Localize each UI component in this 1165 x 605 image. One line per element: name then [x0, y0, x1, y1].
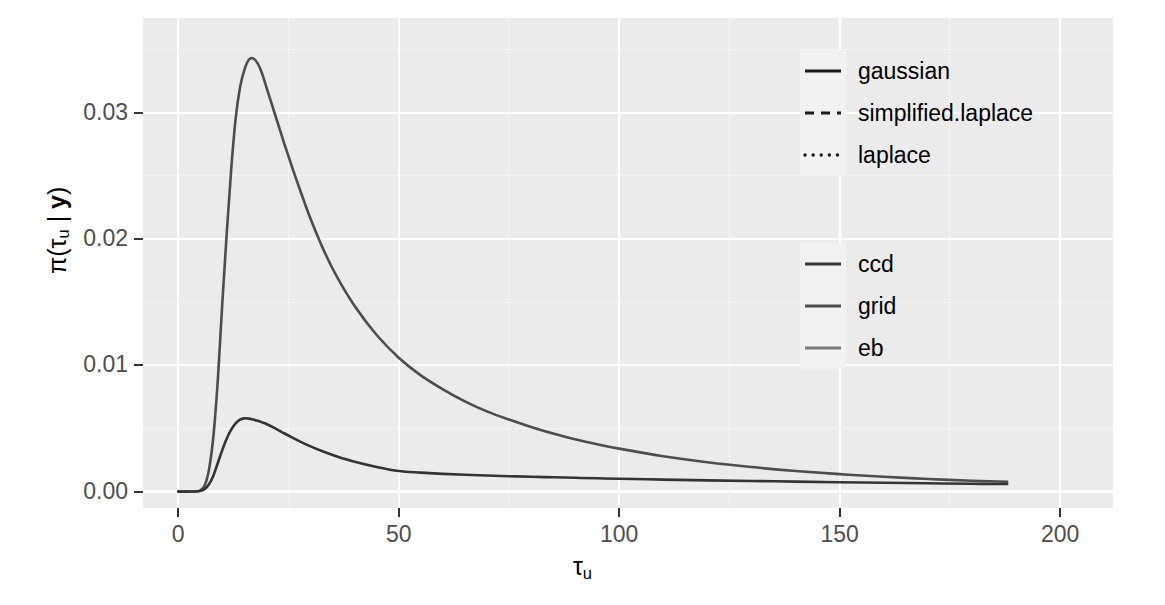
legend-item-grid[interactable]: grid: [800, 285, 896, 327]
y-tick-label: 0.01: [30, 351, 128, 378]
legend-key-solid-icon: [800, 243, 846, 285]
legend-label: ccd: [858, 251, 894, 278]
legend-key-solid-icon: [800, 327, 846, 369]
x-axis-title: τu: [0, 552, 1165, 583]
x-tick-label: 200: [1000, 521, 1120, 548]
x-tick-label: 50: [339, 521, 459, 548]
x-tick-mark: [398, 508, 400, 517]
x-tick-mark: [177, 508, 179, 517]
y-tick-mark: [134, 112, 143, 114]
x-tick-label: 150: [780, 521, 900, 548]
legend-label: simplified.laplace: [858, 100, 1033, 127]
legend-label: gaussian: [858, 58, 950, 85]
legend-key-solid-icon: [800, 285, 846, 327]
legend-label: eb: [858, 335, 884, 362]
x-tick-label: 100: [559, 521, 679, 548]
x-tick-mark: [1059, 508, 1061, 517]
legend-item-gaussian[interactable]: gaussian: [800, 50, 1033, 92]
x-tick-mark: [839, 508, 841, 517]
x-tick-mark: [618, 508, 620, 517]
y-tick-mark: [134, 491, 143, 493]
legend-key-solid-icon: [800, 50, 846, 92]
y-tick-mark: [134, 364, 143, 366]
x-tick-label: 0: [118, 521, 238, 548]
legend-colour: ccdgrideb: [800, 243, 896, 369]
curve-ccd-low-peak: [178, 418, 1007, 491]
legend-key-dotted-icon: [800, 134, 846, 176]
legend-linetype: gaussiansimplified.laplacelaplace: [800, 50, 1033, 176]
legend-item-laplace[interactable]: laplace: [800, 134, 1033, 176]
chart-figure: 0.000.010.020.03 050100150200 π(τu | y) …: [0, 0, 1165, 605]
legend-key-dashed-icon: [800, 92, 846, 134]
y-tick-label: 0.00: [30, 478, 128, 505]
legend-item-simplified-laplace[interactable]: simplified.laplace: [800, 92, 1033, 134]
legend-label: laplace: [858, 142, 931, 169]
legend-item-ccd[interactable]: ccd: [800, 243, 896, 285]
legend-label: grid: [858, 293, 896, 320]
y-axis-title: π(τu | y): [43, 130, 74, 330]
legend-item-eb[interactable]: eb: [800, 327, 896, 369]
y-tick-mark: [134, 238, 143, 240]
y-tick-label: 0.03: [30, 99, 128, 126]
